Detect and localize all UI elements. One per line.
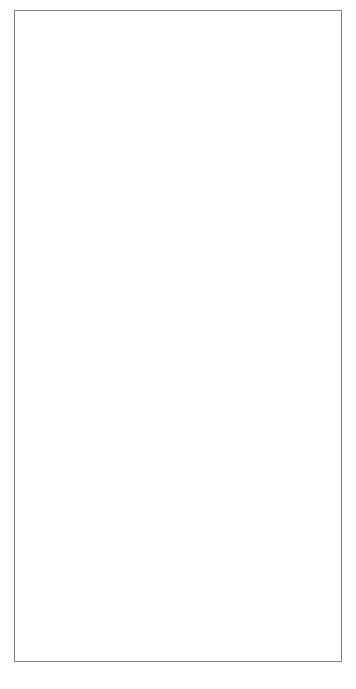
figure-page: 18.2%17.9%27.5%28.0%84.5%77.6%84.2%81.2%…	[0, 0, 356, 689]
chart-frame: 18.2%17.9%27.5%28.0%84.5%77.6%84.2%81.2%…	[14, 10, 342, 662]
rotation-stage: 18.2%17.9%27.5%28.0%84.5%77.6%84.2%81.2%…	[341, 10, 342, 11]
bar-chart: 18.2%17.9%27.5%28.0%84.5%77.6%84.2%81.2%…	[341, 10, 342, 11]
